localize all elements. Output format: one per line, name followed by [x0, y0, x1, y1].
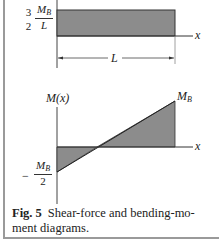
arrow-right-icon	[169, 57, 174, 60]
shear-coefficient: 3 2	[24, 7, 33, 32]
moment-x-axis-label: x	[195, 140, 200, 152]
moment-diagram	[57, 101, 193, 204]
caption-line-1: Shear-force and bending-mo-	[48, 206, 195, 220]
shear-value-fraction: MB L	[35, 4, 53, 31]
moment-y-axis-label: M(x)	[46, 92, 69, 104]
moment-min-fraction: MB 2	[34, 160, 52, 187]
moment-max-label: MB	[177, 90, 192, 104]
shear-value-numerator: MB	[35, 4, 53, 17]
length-label: L	[111, 52, 118, 64]
figure-number: Fig. 5	[12, 206, 42, 220]
caption-line-2: ment diagrams.	[12, 221, 89, 235]
arrow-left-icon	[58, 57, 63, 60]
shear-x-axis-label: x	[195, 29, 200, 41]
shear-diagram	[57, 0, 193, 68]
diagram-canvas	[0, 0, 219, 241]
shear-area	[57, 10, 175, 36]
figure-caption: Fig. 5Shear-force and bending-mo- ment d…	[12, 206, 212, 236]
moment-min-sign: −	[22, 170, 29, 182]
